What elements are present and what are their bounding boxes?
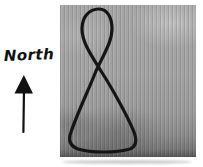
photo-background [60, 5, 196, 157]
north-label: North [2, 45, 57, 65]
figure-eight-curve [60, 5, 196, 157]
north-arrow-shaft [23, 89, 24, 132]
figure-canvas: North [0, 0, 203, 167]
figure-eight-path [70, 9, 136, 152]
north-arrow-head [15, 75, 34, 94]
photo-shadow [62, 160, 192, 164]
north-arrow-icon [8, 73, 40, 135]
